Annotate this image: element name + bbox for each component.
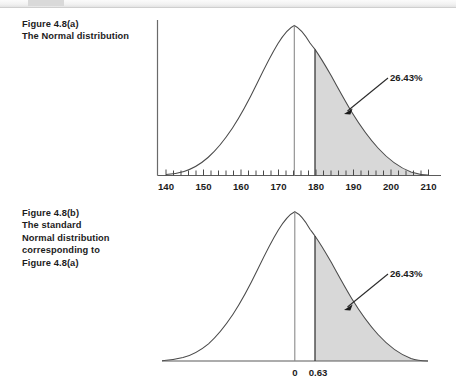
shaded-tail-region-a	[315, 49, 428, 175]
chart-a-svg: 140 150 160 170 180 190 200 210 26.43%	[0, 0, 456, 196]
x-tick-label: 210	[420, 181, 436, 192]
x-tick-label: 160	[233, 181, 249, 192]
chart-standard-normal-distribution: 0 0.63 26.43%	[0, 196, 456, 392]
chart-normal-distribution: 140 150 160 170 180 190 200 210 26.43%	[0, 0, 456, 196]
normal-curve-a	[166, 25, 428, 175]
x-tick-labels-a: 140 150 160 170 180 190 200 210	[158, 181, 437, 192]
annotation-arrow-b	[344, 274, 388, 311]
x-tick-label: 140	[158, 181, 174, 192]
figure-page: Figure 4.8(a) The Normal distribution	[0, 0, 456, 392]
x-tick-label: 180	[308, 181, 324, 192]
annotation-arrow-a	[344, 78, 388, 115]
x-tick-label: 150	[195, 181, 211, 192]
x-tick-label: 0.63	[309, 367, 328, 378]
chart-b-svg: 0 0.63 26.43%	[0, 196, 456, 392]
x-tick-label: 0	[292, 367, 297, 378]
x-tick-label: 190	[345, 181, 361, 192]
annotation-label-a: 26.43%	[390, 72, 423, 83]
x-tick-labels-b: 0 0.63	[292, 367, 327, 378]
x-tick-label: 170	[270, 181, 286, 192]
shaded-tail-region-b	[315, 236, 428, 361]
annotation-label-b: 26.43%	[390, 268, 423, 279]
x-tick-label: 200	[383, 181, 399, 192]
